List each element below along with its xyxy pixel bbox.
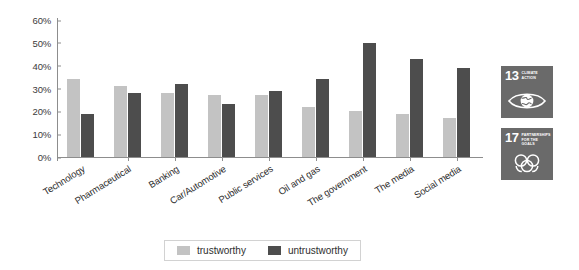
legend-swatch-icon xyxy=(177,246,190,255)
bar-group xyxy=(433,20,480,157)
sdg-title-line2: ACTION xyxy=(521,76,535,80)
sdg-badge-17[interactable]: 17 PARTNERSHIPS FOR THE GOALS xyxy=(501,128,553,180)
sdg-title-line2: FOR THE GOALS xyxy=(521,138,537,147)
bar-group xyxy=(292,20,339,157)
bar-untrustworthy[interactable] xyxy=(316,79,329,157)
sdg-badge-list: 13 CLIMATE ACTION 17 PARTNERSHIPS xyxy=(501,66,553,180)
x-axis-label: Social media xyxy=(411,163,462,201)
bar-group xyxy=(104,20,151,157)
bar-groups xyxy=(57,20,480,157)
bar-trustworthy[interactable] xyxy=(114,86,127,157)
x-axis-labels: TechnologyPharmaceuticalBankingCar/Autom… xyxy=(57,161,480,221)
sdg-title: CLIMATE ACTION xyxy=(521,70,537,80)
bar-group xyxy=(57,20,104,157)
x-axis-label: The media xyxy=(372,163,415,196)
sdg-title: PARTNERSHIPS FOR THE GOALS xyxy=(521,132,550,147)
bar-untrustworthy[interactable] xyxy=(410,59,423,157)
y-axis-tick-label: 60% xyxy=(33,15,57,26)
bar-group xyxy=(198,20,245,157)
y-axis-tick-label: 20% xyxy=(33,106,57,117)
y-axis-tick-label: 30% xyxy=(33,83,57,94)
eye-globe-icon xyxy=(501,86,553,116)
legend-item-untrustworthy[interactable]: untrustworthy xyxy=(268,245,348,256)
bar-trustworthy[interactable] xyxy=(161,93,174,157)
sdg-badge-header: 13 CLIMATE ACTION xyxy=(505,70,550,81)
bar-untrustworthy[interactable] xyxy=(128,93,141,157)
sdg-number: 17 xyxy=(505,132,518,143)
plot-area: 0%10%20%30%40%50%60% xyxy=(57,20,480,157)
bar-untrustworthy[interactable] xyxy=(81,114,94,157)
sdg-badge-header: 17 PARTNERSHIPS FOR THE GOALS xyxy=(505,132,550,147)
bar-trustworthy[interactable] xyxy=(302,107,315,157)
sdg-title-line1: CLIMATE xyxy=(521,71,537,75)
bar-untrustworthy[interactable] xyxy=(457,68,470,157)
y-axis-tick-label: 40% xyxy=(33,60,57,71)
bar-group xyxy=(386,20,433,157)
sdg-title-line1: PARTNERSHIPS xyxy=(521,133,550,137)
bar-untrustworthy[interactable] xyxy=(222,104,235,157)
sdg-number: 13 xyxy=(505,70,518,81)
legend-swatch-icon xyxy=(268,246,281,255)
y-axis-tick-label: 50% xyxy=(33,37,57,48)
legend-item-trustworthy[interactable]: trustworthy xyxy=(177,245,246,256)
bar-untrustworthy[interactable] xyxy=(269,91,282,157)
x-axis-label: Banking xyxy=(146,163,180,190)
bar-group xyxy=(245,20,292,157)
chart-legend: trustworthy untrustworthy xyxy=(164,240,361,261)
bar-group xyxy=(339,20,386,157)
bar-chart: 0%10%20%30%40%50%60% TechnologyPharmaceu… xyxy=(0,0,492,270)
bar-trustworthy[interactable] xyxy=(443,118,456,157)
bar-trustworthy[interactable] xyxy=(396,114,409,157)
bar-trustworthy[interactable] xyxy=(255,95,268,157)
y-axis-tick-label: 0% xyxy=(38,152,57,163)
interlocking-circles-icon xyxy=(501,148,553,178)
bar-trustworthy[interactable] xyxy=(67,79,80,157)
chart-page: 0%10%20%30%40%50%60% TechnologyPharmaceu… xyxy=(0,0,579,270)
bar-untrustworthy[interactable] xyxy=(363,43,376,157)
legend-label: untrustworthy xyxy=(288,245,348,256)
y-axis-tick-label: 10% xyxy=(33,129,57,140)
bar-untrustworthy[interactable] xyxy=(175,84,188,157)
bar-trustworthy[interactable] xyxy=(208,95,221,157)
legend-label: trustworthy xyxy=(197,245,246,256)
x-axis-line xyxy=(57,157,483,158)
bar-trustworthy[interactable] xyxy=(349,111,362,157)
bar-group xyxy=(151,20,198,157)
sdg-badge-13[interactable]: 13 CLIMATE ACTION xyxy=(501,66,553,118)
